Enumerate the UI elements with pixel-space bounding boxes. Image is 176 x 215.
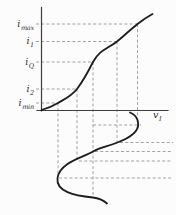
label-v-i-base: v	[153, 109, 158, 120]
figure-canvas: imax i1 iQ i2 imin vI	[0, 0, 176, 215]
label-i-1: i1	[0, 35, 34, 47]
label-i-q-subscript: Q	[29, 60, 34, 72]
label-v-i-axis: vI	[153, 109, 175, 121]
label-i-min: imin	[0, 97, 34, 109]
label-i-min-subscript: min	[22, 101, 34, 113]
label-v-i-subscript: I	[159, 113, 161, 125]
label-i-1-subscript: 1	[30, 39, 34, 51]
input-waveform	[57, 113, 138, 204]
label-i-max-subscript: max	[21, 22, 34, 34]
label-i-max: imax	[0, 18, 34, 30]
label-i-q: iQ	[0, 56, 34, 68]
label-i-2: i2	[0, 83, 34, 95]
